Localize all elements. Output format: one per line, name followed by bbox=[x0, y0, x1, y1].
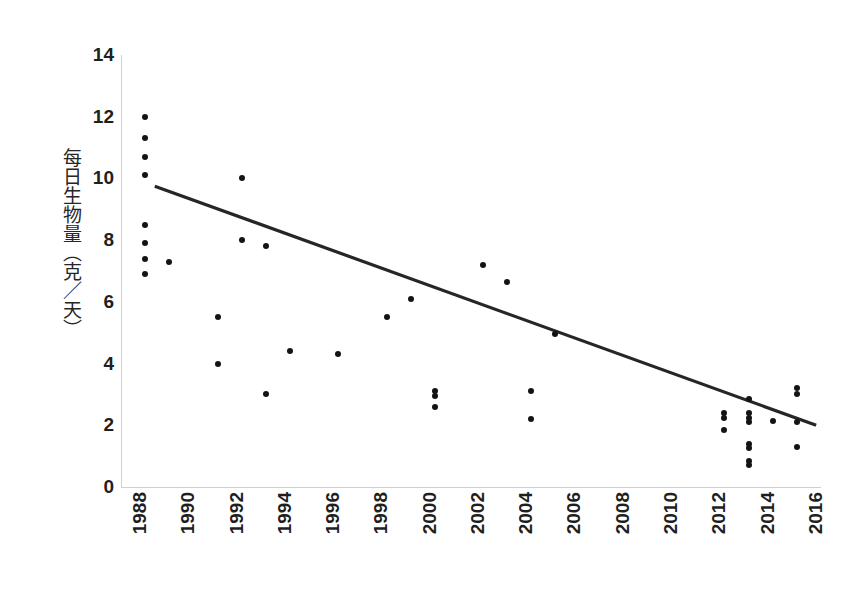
data-point bbox=[142, 154, 148, 160]
x-tick-label: 2002 bbox=[467, 492, 489, 534]
y-tick-label: 6 bbox=[74, 291, 114, 313]
data-point bbox=[239, 237, 245, 243]
x-tick-label: 1992 bbox=[226, 492, 248, 534]
y-tick-label: 10 bbox=[74, 167, 114, 189]
data-point bbox=[432, 404, 438, 410]
data-point bbox=[166, 259, 172, 265]
data-point bbox=[746, 396, 752, 402]
plot-area bbox=[121, 55, 821, 487]
x-tick-label: 1990 bbox=[177, 492, 199, 534]
x-tick-label: 2000 bbox=[419, 492, 441, 534]
data-point bbox=[770, 418, 776, 424]
x-tick-label: 1998 bbox=[370, 492, 392, 534]
x-axis-tick-labels: 1988199019921994199619982000200220042006… bbox=[121, 492, 821, 582]
y-tick-label: 4 bbox=[74, 353, 114, 375]
x-tick-label: 2010 bbox=[660, 492, 682, 534]
x-tick-label: 2012 bbox=[708, 492, 730, 534]
x-tick-label: 1994 bbox=[274, 492, 296, 534]
data-point bbox=[142, 256, 148, 262]
y-tick-label: 2 bbox=[74, 414, 114, 436]
data-point bbox=[408, 296, 414, 302]
x-tick-label: 2006 bbox=[563, 492, 585, 534]
y-tick-label: 8 bbox=[74, 229, 114, 251]
data-point bbox=[504, 279, 510, 285]
data-point bbox=[215, 361, 221, 367]
data-point bbox=[746, 462, 752, 468]
scatter-chart: 每日生物量（克／天） 02468101214 19881990199219941… bbox=[0, 0, 846, 591]
x-tick-label: 1996 bbox=[322, 492, 344, 534]
x-tick-label: 2014 bbox=[757, 492, 779, 534]
data-point bbox=[480, 262, 486, 268]
x-tick-label: 2008 bbox=[612, 492, 634, 534]
x-tick-label: 2004 bbox=[515, 492, 537, 534]
x-tick-label: 1988 bbox=[129, 492, 151, 534]
y-tick-label: 0 bbox=[74, 476, 114, 498]
data-point bbox=[432, 393, 438, 399]
data-point bbox=[142, 222, 148, 228]
data-point bbox=[384, 314, 390, 320]
y-tick-label: 12 bbox=[74, 106, 114, 128]
y-axis-tick-labels: 02468101214 bbox=[66, 55, 114, 487]
x-axis-line bbox=[121, 487, 821, 488]
data-point bbox=[142, 114, 148, 120]
x-tick-label: 2016 bbox=[805, 492, 827, 534]
data-point bbox=[215, 314, 221, 320]
data-point bbox=[746, 419, 752, 425]
y-tick-label: 14 bbox=[74, 44, 114, 66]
trendline bbox=[121, 55, 821, 487]
data-point bbox=[794, 444, 800, 450]
